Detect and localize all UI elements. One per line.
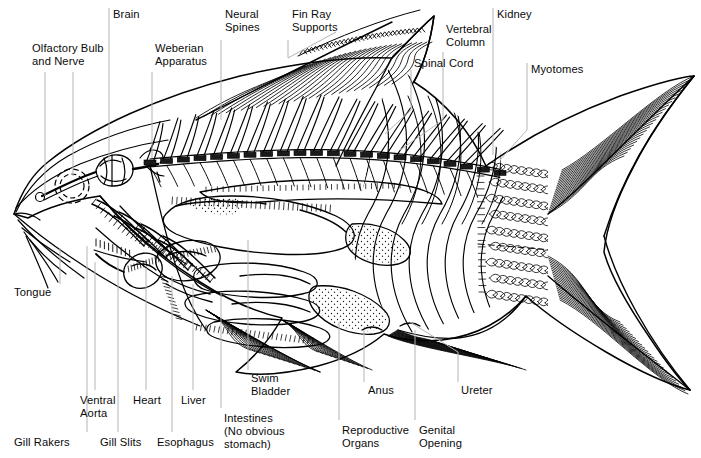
label-tongue: Tongue	[14, 286, 51, 299]
label-liver: Liver	[181, 394, 206, 407]
lead-ureter	[410, 322, 458, 382]
label-vertebral_column: Vertebral Column	[446, 23, 492, 49]
lead-finray	[288, 32, 336, 58]
label-intestines: Intestines (No obvious stomach)	[224, 412, 285, 452]
leader-lines-layer	[0, 0, 701, 458]
label-fin_ray_supports: Fin Ray Supports	[292, 8, 338, 34]
label-reproductive: Reproductive Organs	[342, 424, 409, 450]
label-anus: Anus	[368, 384, 394, 397]
label-brain: Brain	[113, 8, 140, 21]
label-weberian: Weberian Apparatus	[155, 42, 207, 68]
lead-myotomes	[500, 63, 527, 160]
label-neural_spines: Neural Spines	[225, 8, 260, 34]
fish-anatomy-diagram: BrainNeural SpinesFin Ray SupportsKidney…	[0, 0, 701, 458]
label-ureter: Ureter	[461, 384, 493, 397]
label-genital_opening: Genital Opening	[419, 424, 462, 450]
label-esophagus: Esophagus	[157, 436, 214, 449]
label-heart: Heart	[133, 394, 161, 407]
label-gill_rakers: Gill Rakers	[14, 436, 70, 449]
label-kidney: Kidney	[497, 8, 532, 21]
label-myotomes: Myotomes	[531, 63, 583, 76]
label-gill_slits: Gill Slits	[100, 436, 141, 449]
label-swim_bladder: Swim Bladder	[251, 372, 290, 398]
lead-spinal	[385, 70, 411, 134]
label-spinal_cord: Spinal Cord	[414, 57, 474, 70]
label-olfactory_bulb: Olfactory Bulb and Nerve	[32, 42, 104, 68]
label-ventral_aorta: Ventral Aorta	[80, 394, 116, 420]
